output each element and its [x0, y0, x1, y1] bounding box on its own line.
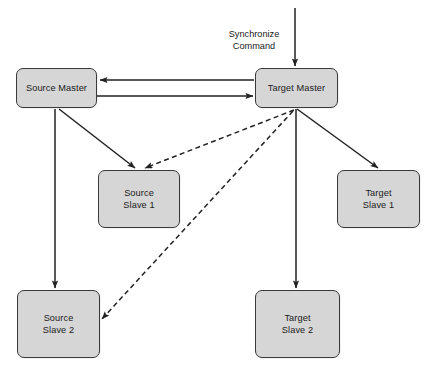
diagram-canvas: Synchronize Command Source Master Target… [0, 0, 434, 373]
node-target-master-label: Target Master [265, 82, 328, 95]
node-source-master-label: Source Master [23, 82, 90, 95]
node-target-master[interactable]: Target Master [255, 68, 338, 108]
node-source-slave-1[interactable]: Source Slave 1 [98, 170, 180, 228]
node-target-slave-2-label: Target Slave 2 [279, 312, 316, 337]
edge-target-master-to-source-slave-1 [145, 110, 294, 168]
node-source-slave-2[interactable]: Source Slave 2 [17, 290, 100, 358]
node-target-slave-1[interactable]: Target Slave 1 [337, 170, 420, 228]
edge-source-master-to-source-slave-1 [59, 109, 135, 168]
edge-label-synchronize-command: Synchronize Command [222, 16, 286, 53]
edge-label-text: Synchronize Command [229, 29, 280, 51]
node-source-slave-1-label: Source Slave 1 [120, 187, 157, 212]
node-target-slave-1-label: Target Slave 1 [360, 187, 397, 212]
node-target-slave-2[interactable]: Target Slave 2 [255, 290, 340, 358]
node-source-slave-2-label: Source Slave 2 [40, 312, 77, 337]
node-source-master[interactable]: Source Master [16, 68, 97, 108]
edge-target-master-to-target-slave-1 [297, 109, 378, 168]
